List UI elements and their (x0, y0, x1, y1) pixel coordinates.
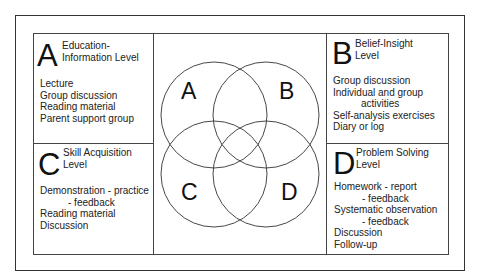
venn-circle-c (161, 121, 267, 227)
venn-label-b: B (279, 78, 294, 104)
venn-circle-b (213, 62, 319, 168)
venn-circle-d (213, 121, 319, 227)
venn-label-d: D (281, 179, 298, 205)
venn-circle-a (161, 62, 267, 168)
venn-label-a: A (181, 78, 197, 104)
venn-label-c: C (181, 179, 198, 205)
venn-diagram: A B C D (0, 0, 482, 280)
